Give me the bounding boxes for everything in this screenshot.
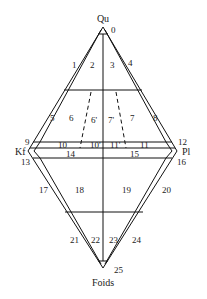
pl-inner-chevron <box>166 142 172 158</box>
inner-left-lower <box>40 158 101 264</box>
field-20: 20 <box>162 185 172 195</box>
field-6p: 6' <box>91 115 98 125</box>
field-17: 17 <box>39 185 49 195</box>
field-12: 12 <box>178 137 187 147</box>
field-0: 0 <box>111 25 116 35</box>
field-23: 23 <box>109 235 119 245</box>
field-10p: 10' <box>90 140 101 150</box>
field-1: 1 <box>72 60 77 70</box>
field-21: 21 <box>70 235 79 245</box>
field-22: 22 <box>91 235 100 245</box>
vertex-qu: Qu <box>97 13 109 24</box>
field-15: 15 <box>130 149 140 159</box>
field-5: 5 <box>50 113 55 123</box>
field-14: 14 <box>66 149 76 159</box>
qapf-diagram: Qu Kf Pl Foids 0 1 2 3 4 5 6 6' 7' 7 8 9… <box>0 0 207 299</box>
field-24: 24 <box>132 235 142 245</box>
field-6: 6 <box>69 113 74 123</box>
field-13: 13 <box>21 157 31 167</box>
field-11: 11 <box>140 140 149 150</box>
inner-right-lower <box>105 158 166 264</box>
field-8: 8 <box>153 113 158 123</box>
diagram-lines <box>28 27 177 268</box>
inner-right-upper <box>105 30 166 142</box>
vertex-pl: Pl <box>182 146 191 157</box>
kf-inner-chevron <box>34 142 40 158</box>
field-11p: 11' <box>110 140 121 150</box>
field-7p: 7' <box>108 115 115 125</box>
field-16: 16 <box>177 157 187 167</box>
field-3: 3 <box>110 60 115 70</box>
field-7: 7 <box>130 113 135 123</box>
inner-left-upper <box>40 30 101 142</box>
field-9: 9 <box>25 137 30 147</box>
vertex-foids: Foids <box>92 277 114 288</box>
field-19: 19 <box>122 185 132 195</box>
field-4: 4 <box>128 58 133 68</box>
field-18: 18 <box>75 185 85 195</box>
field-2: 2 <box>90 60 95 70</box>
vertex-kf: Kf <box>15 146 26 157</box>
field-25: 25 <box>114 265 124 275</box>
